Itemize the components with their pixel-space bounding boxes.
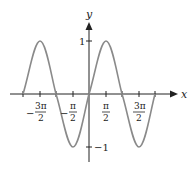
y-axis-label: y bbox=[85, 8, 93, 21]
sine-graph: x y 1 −1 − 3π 2 − π 2 π 2 3 bbox=[0, 0, 194, 175]
minus-sign: − bbox=[26, 108, 34, 119]
y-axis-arrow-icon bbox=[86, 22, 93, 30]
x-tick-label-neg-pi-2-den: 2 bbox=[70, 113, 76, 123]
x-tick-label-pi-2-num: π bbox=[103, 101, 109, 111]
minus-sign: − bbox=[60, 108, 68, 119]
x-axis-label: x bbox=[181, 88, 188, 101]
x-tick-label-pi-2-den: 2 bbox=[103, 113, 109, 123]
y-tick-label-1: 1 bbox=[79, 36, 85, 47]
x-tick-label-3pi-2-num: 3π bbox=[134, 101, 146, 111]
x-tick-label-3pi-2-den: 2 bbox=[136, 113, 142, 123]
y-tick-label-neg1: −1 bbox=[94, 142, 109, 153]
x-tick-label-neg-3pi-2-num: 3π bbox=[35, 101, 47, 111]
x-tick-label-neg-3pi-2-den: 2 bbox=[38, 113, 44, 123]
x-tick-label-neg-pi-2-num: π bbox=[70, 101, 76, 111]
x-axis-arrow-icon bbox=[170, 91, 178, 98]
